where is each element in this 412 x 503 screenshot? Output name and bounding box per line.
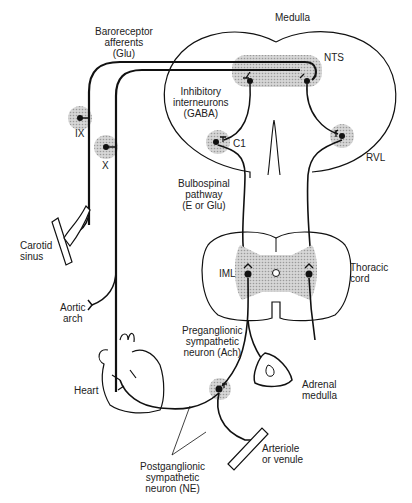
label-adrenal: Adrenal medulla — [302, 379, 337, 401]
postganglionic-heart — [120, 380, 219, 409]
label-baroreceptor: Baroreceptor afferents (Glu) — [95, 26, 153, 59]
postganglionic-arteriole — [218, 393, 255, 440]
label-carotid: Carotid sinus — [20, 240, 52, 262]
carotid-sinus-vessel — [52, 206, 90, 265]
label-nts: NTS — [324, 52, 344, 63]
label-x: X — [102, 160, 109, 171]
adrenal-drawing — [254, 353, 292, 386]
label-medulla: Medulla — [275, 12, 310, 23]
label-aortic: Aortic arch — [60, 302, 86, 324]
label-heart: Heart — [74, 385, 98, 396]
label-thoracic: Thoracic cord — [350, 262, 388, 284]
label-postganglionic: Postganglionic sympathetic neuron (NE) — [140, 461, 205, 494]
label-ix: IX — [75, 128, 84, 139]
medulla-fissure — [268, 120, 280, 175]
label-c1: C1 — [233, 138, 246, 149]
label-arteriole: Arteriole or venule — [262, 443, 303, 465]
label-inhibitory: Inhibitory interneurons (GABA) — [173, 86, 229, 119]
label-rvl: RVL — [366, 152, 385, 163]
label-preganglionic: Preganglionic sympathetic neuron (Ach) — [182, 325, 243, 358]
diagram-canvas — [0, 0, 412, 503]
nts-to-rvl — [307, 84, 338, 134]
label-iml: IML — [219, 268, 236, 279]
heart-drawing — [99, 333, 164, 413]
label-bulbospinal: Bulbospinal pathway (E or Glu) — [178, 178, 230, 211]
